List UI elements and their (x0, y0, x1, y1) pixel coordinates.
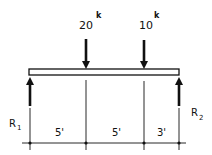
dimension-3-label: 3' (157, 127, 166, 138)
extension-lines (30, 80, 179, 150)
beam (29, 69, 179, 75)
dimension-2-label: 5' (112, 127, 121, 138)
reaction-arrow-2 (175, 77, 183, 106)
reaction-1-subscript: 1 (17, 124, 21, 132)
load-arrow-1 (82, 39, 90, 69)
load-1-unit: k (96, 11, 102, 20)
load-2-value: 10 (139, 19, 153, 32)
reaction-2-subscript: 2 (199, 114, 203, 122)
reaction-arrow-1 (26, 77, 34, 106)
load-2-unit: k (154, 11, 160, 20)
beam-diagram-canvas: 20 k 10 k R 1 R 2 (0, 0, 212, 155)
reaction-2-label: R (191, 107, 198, 118)
load-1-value: 20 (79, 19, 93, 32)
dimension-1-label: 5' (55, 127, 64, 138)
beam-diagram: 20 k 10 k R 1 R 2 (0, 0, 212, 155)
reaction-1-label: R (9, 118, 16, 129)
load-arrow-2 (140, 40, 148, 69)
